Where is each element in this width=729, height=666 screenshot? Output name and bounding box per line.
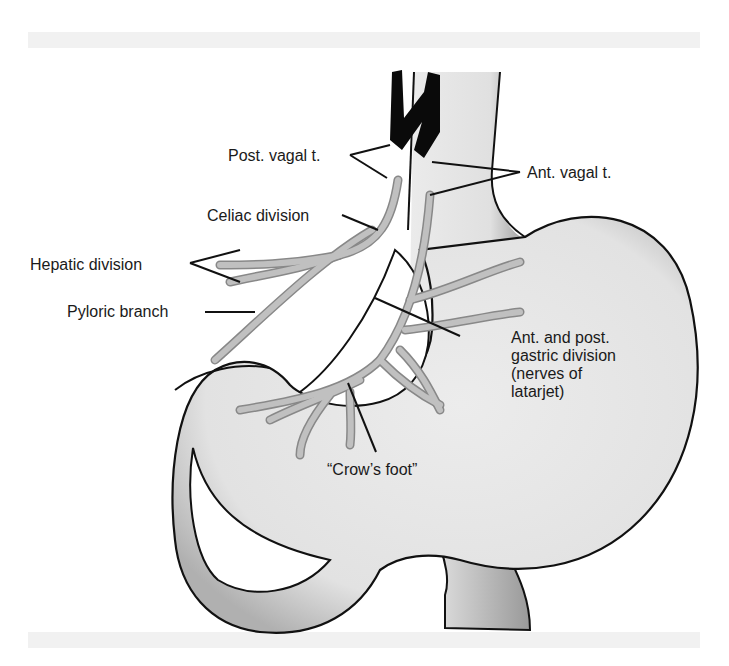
label-pyloric-branch: Pyloric branch (67, 302, 168, 321)
label-hepatic-division: Hepatic division (30, 255, 142, 274)
label-gastric-division-2: gastric division (511, 346, 616, 365)
label-gastric-division-3: (nerves of (511, 364, 582, 383)
label-celiac-division: Celiac division (207, 206, 309, 225)
label-crows-foot: “Crow’s foot” (327, 460, 417, 479)
stomach-vagus-diagram: Post. vagal t. Ant. vagal t. Celiac divi… (0, 0, 729, 666)
label-post-vagal-trunk: Post. vagal t. (228, 146, 321, 165)
anatomy-illustration (0, 0, 729, 666)
label-ant-vagal-trunk: Ant. vagal t. (527, 163, 612, 182)
label-gastric-division-1: Ant. and post. (511, 328, 610, 347)
label-gastric-division-4: latarjet) (511, 382, 564, 401)
